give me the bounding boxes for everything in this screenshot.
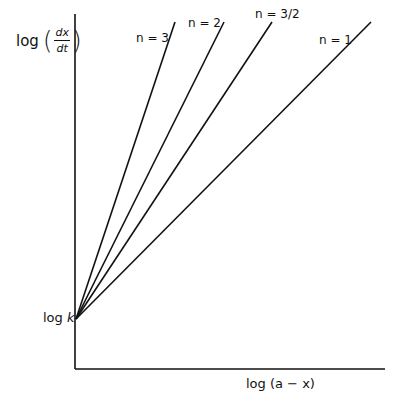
x-axis-label: log (a − x) (246, 376, 315, 391)
ylabel-log: log (16, 32, 39, 50)
line-n3 (76, 22, 175, 319)
line-n2 (76, 22, 224, 319)
line-n32 (76, 22, 272, 319)
ylabel-fraction: dx dt (54, 26, 70, 55)
label-n1: n = 1 (319, 33, 352, 47)
label-n3: n = 3 (136, 31, 169, 45)
line-n1 (76, 22, 371, 319)
label-n2: n = 2 (188, 16, 221, 30)
plot-area (0, 0, 399, 399)
y-axis-label: log ( dx dt ) (16, 26, 82, 55)
intercept-label: log k (43, 310, 75, 325)
label-n32: n = 3/2 (255, 7, 300, 21)
